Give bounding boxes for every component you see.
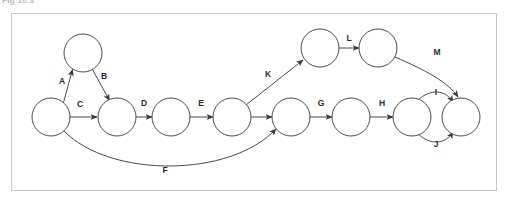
edge-label-I: I (435, 87, 437, 97)
edge-label-H: H (379, 98, 385, 108)
edge-label-L: L (346, 33, 351, 43)
node-n9[interactable] (442, 98, 480, 136)
node-n8[interactable] (393, 98, 431, 136)
edge-label-A: A (59, 76, 65, 86)
node-n5[interactable] (213, 98, 251, 136)
edge-label-K: K (265, 69, 272, 79)
edge-label-M: M (433, 47, 440, 57)
node-n7[interactable] (332, 98, 370, 136)
edge-label-G: G (318, 98, 325, 108)
node-n10[interactable] (301, 29, 339, 67)
edge-label-E: E (198, 98, 204, 108)
state-transition-diagram: A B C D E F G H I J K L M (0, 0, 516, 206)
node-n1[interactable] (32, 98, 70, 136)
edge-M (395, 57, 458, 97)
node-n3[interactable] (98, 98, 136, 136)
node-n6[interactable] (272, 98, 310, 136)
edge-label-J: J (434, 139, 439, 149)
edge-label-B: B (101, 71, 107, 81)
node-n4[interactable] (152, 98, 190, 136)
edge-label-F: F (162, 165, 167, 175)
node-n11[interactable] (359, 29, 397, 67)
node-n2[interactable] (64, 34, 102, 72)
edge-label-C: C (77, 99, 83, 109)
edge-label-D: D (141, 98, 147, 108)
